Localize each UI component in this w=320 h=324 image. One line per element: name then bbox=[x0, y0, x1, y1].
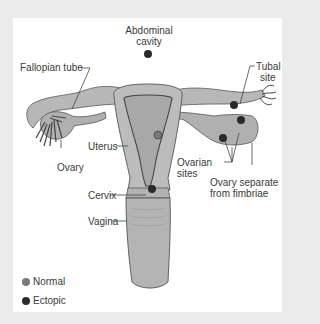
label-abdominal-cavity-line2: cavity bbox=[118, 36, 180, 47]
label-vagina: Vagina bbox=[88, 216, 118, 227]
legend-normal-label: Normal bbox=[33, 276, 65, 287]
label-abdominal-cavity-line1: Abdominal bbox=[118, 25, 180, 36]
label-uterus: Uterus bbox=[88, 141, 117, 152]
legend-ectopic: Ectopic bbox=[22, 295, 66, 306]
label-abdominal-cavity: Abdominal cavity bbox=[118, 25, 180, 47]
label-tubal-site-line1: Tubal bbox=[256, 61, 281, 72]
label-ovarian-sites-line1: Ovarian bbox=[177, 157, 212, 168]
ectopic-dot-tubal bbox=[230, 101, 238, 109]
ectopic-dot-ovarian-upper bbox=[237, 116, 245, 124]
label-tubal-site: Tubal site bbox=[256, 61, 281, 83]
vagina bbox=[126, 198, 170, 288]
legend-normal: Normal bbox=[22, 276, 65, 287]
normal-dot-icon bbox=[22, 278, 30, 286]
left-ovary bbox=[40, 112, 106, 140]
cervix bbox=[126, 188, 170, 198]
label-ovary-separate-line2: from fimbriae bbox=[210, 188, 278, 199]
legend-ectopic-label: Ectopic bbox=[33, 295, 66, 306]
label-fallopian-tube: Fallopian tube bbox=[20, 62, 83, 73]
right-fallopian-tube bbox=[168, 88, 265, 106]
normal-dot-uterus bbox=[154, 131, 162, 139]
ectopic-dot-cervix bbox=[148, 185, 156, 193]
label-ovarian-sites: Ovarian sites bbox=[177, 157, 212, 179]
right-ovary bbox=[170, 112, 258, 145]
label-cervix: Cervix bbox=[88, 190, 116, 201]
label-tubal-site-line2: site bbox=[256, 72, 281, 83]
label-ovary: Ovary bbox=[57, 162, 84, 173]
ectopic-dot-icon bbox=[22, 297, 30, 305]
label-ovarian-sites-line2: sites bbox=[177, 168, 212, 179]
ectopic-dot-abdominal bbox=[144, 50, 152, 58]
label-ovary-separate-line1: Ovary separate bbox=[210, 177, 278, 188]
label-ovary-separate: Ovary separate from fimbriae bbox=[210, 177, 278, 199]
ectopic-dot-ovarian-lower bbox=[219, 134, 227, 142]
